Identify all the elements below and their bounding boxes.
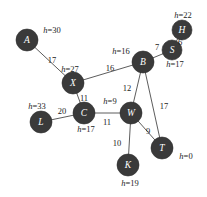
edge-weight-X-B: 16 <box>106 64 115 73</box>
heuristic-label-B: h=16 <box>112 47 130 56</box>
node-label-S: S <box>170 45 175 55</box>
heuristic-value-T: =0 <box>184 151 193 161</box>
heuristic-label-H: h=22 <box>174 11 192 20</box>
edge-weight-C-L: 20 <box>58 107 67 116</box>
node-label-H: H <box>178 25 187 35</box>
node-label-L: L <box>37 117 43 127</box>
edge-weight-X-C: 11 <box>80 94 88 103</box>
heuristic-value-W: =9 <box>108 96 117 106</box>
heuristic-value-A: =30 <box>47 25 60 35</box>
edge-weight-B-W: 12 <box>123 84 132 93</box>
heuristic-label-K: h=19 <box>121 179 139 188</box>
edge-weight-W-T: 9 <box>146 127 150 136</box>
heuristic-value-H: =22 <box>178 10 191 20</box>
graph-edge-W-K <box>129 123 131 155</box>
heuristic-value-K: =19 <box>125 178 138 188</box>
edge-weight-W-K: 10 <box>113 139 122 148</box>
heuristic-value-B: =16 <box>116 46 129 56</box>
node-label-K: K <box>124 160 132 170</box>
graph-node-B[interactable]: B <box>132 51 154 73</box>
heuristic-label-W: h=9 <box>103 97 116 106</box>
heuristic-value-X: =27 <box>65 64 78 74</box>
heuristic-label-C: h=17 <box>77 125 95 134</box>
graph-node-A[interactable]: A <box>16 29 38 51</box>
edge-weight-C-W: 11 <box>103 118 111 127</box>
graph-edge-B-S <box>152 53 163 58</box>
node-label-X: X <box>69 78 77 88</box>
graph-node-T[interactable]: T <box>151 137 173 159</box>
node-label-T: T <box>159 143 165 153</box>
edge-weight-B-T: 17 <box>160 102 169 111</box>
edge-weight-B-S: 7 <box>155 43 159 52</box>
edge-weight-S-H: 6 <box>178 38 182 47</box>
graph-node-X[interactable]: X <box>62 72 84 94</box>
graph-figure: AXBSHCLWTK 1716117612172011910 h=30h=27h… <box>0 0 207 197</box>
heuristic-label-S: h=17 <box>166 60 184 69</box>
heuristic-label-L: h=33 <box>28 102 46 111</box>
graph-node-L[interactable]: L <box>30 111 52 133</box>
heuristic-value-C: =17 <box>81 124 94 134</box>
heuristic-label-T: h=0 <box>179 152 192 161</box>
node-label-A: A <box>23 35 30 45</box>
graph-edge-B-W <box>133 72 140 104</box>
node-label-C: C <box>81 108 88 118</box>
node-label-W: W <box>127 108 136 118</box>
graph-node-W[interactable]: W <box>120 102 142 124</box>
heuristic-value-L: =33 <box>32 101 45 111</box>
graph-node-C[interactable]: C <box>73 102 95 124</box>
heuristic-label-A: h=30 <box>43 26 61 35</box>
graph-node-K[interactable]: K <box>117 154 139 176</box>
graph-edge-C-L <box>51 115 74 120</box>
heuristic-value-S: =17 <box>170 59 183 69</box>
node-label-B: B <box>140 57 146 67</box>
heuristic-label-X: h=27 <box>61 65 79 74</box>
edge-weight-A-X: 17 <box>48 56 57 65</box>
